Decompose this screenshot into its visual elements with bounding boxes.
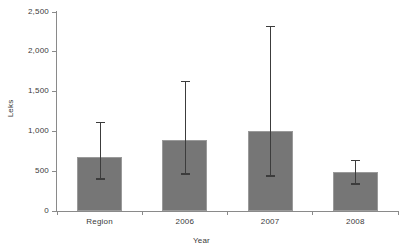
y-tick-mark xyxy=(52,131,57,132)
error-bar-stem xyxy=(100,122,101,178)
error-bar-cap-upper xyxy=(266,26,275,27)
x-tick-label: 2006 xyxy=(145,217,225,226)
error-bar-stem xyxy=(270,26,271,175)
y-tick-mark xyxy=(52,91,57,92)
error-bar-cap-upper xyxy=(181,81,190,82)
error-bar-cap-upper xyxy=(96,122,105,123)
error-bar-stem xyxy=(355,160,356,183)
error-bar-cap-lower xyxy=(96,178,105,180)
y-tick-label: 2,500 xyxy=(28,8,49,16)
x-tick-label: 2007 xyxy=(230,217,310,226)
x-tick-mark xyxy=(312,211,313,215)
y-tick-mark xyxy=(52,12,57,13)
y-tick-label: 1,000 xyxy=(28,127,49,135)
x-tick-mark xyxy=(142,211,143,215)
error-bar-cap-upper xyxy=(351,160,360,161)
x-tick-mark xyxy=(398,211,399,215)
y-tick-label: 500 xyxy=(35,167,49,175)
x-tick-label: 2008 xyxy=(315,217,395,226)
y-tick-label: 1,500 xyxy=(28,87,49,95)
x-tick-mark xyxy=(227,211,228,215)
bar-chart: Leks Year 05001,0001,5002,0002,500 Regio… xyxy=(0,0,403,252)
y-tick-label: 2,000 xyxy=(28,47,49,55)
x-axis-title: Year xyxy=(0,236,403,245)
x-tick-label: Region xyxy=(60,217,140,226)
y-axis-line xyxy=(56,11,57,212)
y-tick-mark xyxy=(52,51,57,52)
error-bar-cap-lower xyxy=(266,175,275,177)
y-tick-label: 0 xyxy=(44,207,49,215)
error-bar-cap-lower xyxy=(351,183,360,185)
y-tick-mark xyxy=(52,171,57,172)
error-bar-cap-lower xyxy=(181,173,190,175)
y-axis-title: Leks xyxy=(6,89,15,129)
x-tick-mark xyxy=(57,211,58,215)
error-bar-stem xyxy=(185,81,186,173)
